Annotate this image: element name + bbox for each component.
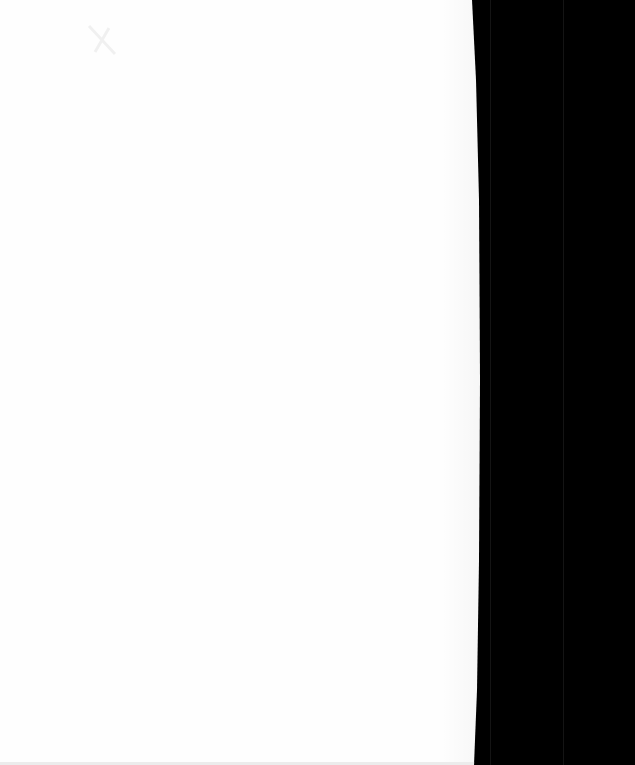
page-shading	[0, 0, 480, 765]
scan-background	[0, 0, 635, 765]
background-line	[563, 0, 564, 765]
show-through-mark-icon	[85, 22, 125, 58]
background-line	[490, 0, 491, 765]
blank-page	[0, 0, 480, 765]
